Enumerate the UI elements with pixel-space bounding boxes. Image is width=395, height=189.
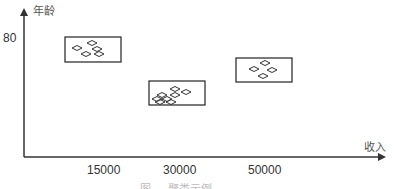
x-tick-15000: 15000	[87, 164, 120, 176]
diamond-point-icon	[166, 100, 176, 105]
diamond-point-icon	[181, 90, 191, 95]
diamond-point-icon	[260, 61, 270, 66]
diamond-point-icon	[72, 46, 82, 51]
y-axis-label: 年龄	[33, 6, 55, 17]
cluster-3	[236, 58, 292, 82]
x-tick-50000: 50000	[248, 164, 281, 176]
diamond-point-icon	[81, 52, 91, 57]
figure-caption: 图 ... 聚类示例	[140, 180, 212, 189]
diamond-point-icon	[258, 74, 268, 79]
diamond-point-icon	[94, 52, 104, 57]
cluster-diagram	[0, 0, 395, 189]
diamond-point-icon	[87, 41, 97, 46]
x-tick-30000: 30000	[163, 164, 196, 176]
diamond-point-icon	[170, 87, 180, 92]
diamond-point-icon	[249, 67, 259, 72]
diamond-point-icon	[267, 68, 277, 73]
cluster-2	[149, 81, 205, 105]
diamond-point-icon	[170, 93, 180, 98]
cluster-1	[65, 37, 121, 62]
x-axis-label: 收入	[364, 142, 386, 153]
y-tick-80: 80	[3, 32, 16, 44]
diamond-point-icon	[92, 47, 102, 52]
